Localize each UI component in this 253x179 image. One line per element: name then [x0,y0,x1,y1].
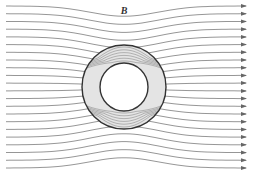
field-line [6,134,246,145]
field-line [6,150,246,161]
field-line [6,142,246,153]
shield-inner-bore [100,63,148,111]
field-line [6,29,246,40]
field-diagram: B [0,0,253,179]
field-line [6,21,246,32]
field-label: B [120,5,128,16]
